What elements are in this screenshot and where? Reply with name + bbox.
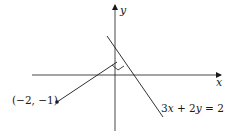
line-equation-label: 3x + 2y = 2 [161,102,224,114]
x-axis-label: x [216,76,223,89]
coordinate-diagram: y x (−2, −1) 3x + 2y = 2 [0,0,234,134]
eq-part-coef-y: + 2 [174,102,196,114]
right-angle-marker [112,65,124,70]
y-axis-label: y [119,4,127,17]
eq-part-rhs: = 2 [202,102,224,114]
point-label: (−2, −1) [12,94,58,106]
eq-part-coef-x: 3 [161,102,168,114]
perpendicular-segment [57,62,117,102]
